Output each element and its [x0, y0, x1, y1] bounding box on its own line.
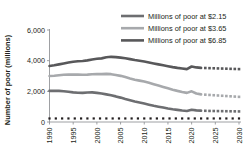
baseline-dot: [194, 117, 196, 119]
series-projection-dot: [212, 67, 215, 70]
series-projection-dot: [204, 109, 207, 112]
series-projection-dot: [221, 67, 224, 70]
series-projection-dot: [221, 110, 224, 113]
baseline-dot: [187, 117, 189, 119]
baseline-dot: [213, 117, 215, 119]
baseline-dot: [80, 117, 82, 119]
x-tick-label: 2010: [140, 128, 149, 144]
series-projection-dot: [233, 95, 236, 98]
baseline-dot: [112, 117, 114, 119]
line-chart: 6,0004,0002,0000199019952000200520102015…: [0, 0, 248, 157]
x-tick-label: 2025: [211, 128, 220, 144]
y-tick-label: 0: [41, 118, 45, 127]
series-projection-dot: [238, 68, 241, 71]
baseline-dot: [55, 117, 57, 119]
legend-label: Millions of poor at $3.65: [148, 24, 226, 33]
baseline-dot: [200, 117, 202, 119]
series-projection-dot: [229, 110, 232, 113]
baseline-dot: [124, 117, 126, 119]
x-tick-label: 2015: [164, 128, 173, 144]
series-projection-dot: [225, 67, 228, 70]
baseline-dot: [225, 117, 227, 119]
series-projection-dot: [233, 68, 236, 71]
x-tick-label: 2000: [93, 128, 102, 144]
baseline-dot: [99, 117, 101, 119]
x-tick-label: 2005: [116, 128, 125, 144]
baseline-dot: [168, 117, 170, 119]
baseline-dot: [149, 117, 151, 119]
x-tick-label: 2020: [187, 128, 196, 144]
series-projection-dot: [233, 110, 236, 113]
baseline-dot: [219, 117, 221, 119]
series-projection-dot: [238, 110, 241, 113]
legend-label: Millions of poor at $6.85: [148, 36, 226, 45]
baseline-dot: [143, 117, 145, 119]
series-projection-dot: [204, 93, 207, 96]
legend-label: Millions of poor at $2.15: [148, 12, 226, 21]
series-line: [50, 57, 202, 69]
series-projection-dot: [229, 95, 232, 98]
series-projection-dot: [212, 94, 215, 97]
series-projection-dot: [225, 110, 228, 113]
x-tick-label: 1990: [45, 128, 54, 144]
series-projection-dot: [212, 110, 215, 113]
baseline-dot: [162, 117, 164, 119]
y-tick-label: 2,000: [27, 87, 45, 96]
baseline-dot: [181, 117, 183, 119]
x-tick-label: 1995: [69, 128, 78, 144]
series-projection-dot: [229, 68, 232, 71]
baseline-dot: [48, 117, 50, 119]
y-tick-label: 6,000: [27, 26, 45, 35]
y-tick-label: 4,000: [27, 56, 45, 65]
baseline-dot: [175, 117, 177, 119]
series-projection-dot: [217, 110, 220, 113]
chart-canvas: 6,0004,0002,0000199019952000200520102015…: [0, 0, 248, 157]
baseline-dot: [93, 117, 95, 119]
baseline-dot: [232, 117, 234, 119]
baseline-dot: [137, 117, 139, 119]
series-projection-dot: [225, 95, 228, 98]
baseline-dot: [118, 117, 120, 119]
baseline-dot: [105, 117, 107, 119]
baseline-dot: [131, 117, 133, 119]
series-projection-dot: [238, 96, 241, 99]
baseline-dot: [74, 117, 76, 119]
series-projection-dot: [208, 110, 211, 113]
baseline-dot: [238, 117, 240, 119]
series-projection-dot: [208, 67, 211, 70]
baseline-dot: [67, 117, 69, 119]
x-tick-label: 2030: [235, 128, 244, 144]
series-projection-dot: [217, 67, 220, 70]
y-axis-title: Number of poor (millions): [3, 34, 12, 125]
baseline-dot: [61, 117, 63, 119]
series-projection-dot: [208, 94, 211, 97]
series-projection-dot: [204, 67, 207, 70]
baseline-dot: [156, 117, 158, 119]
series-projection-dot: [221, 94, 224, 97]
series-projection-dot: [217, 94, 220, 97]
baseline-dot: [206, 117, 208, 119]
series-line: [50, 91, 202, 111]
baseline-dot: [86, 117, 88, 119]
